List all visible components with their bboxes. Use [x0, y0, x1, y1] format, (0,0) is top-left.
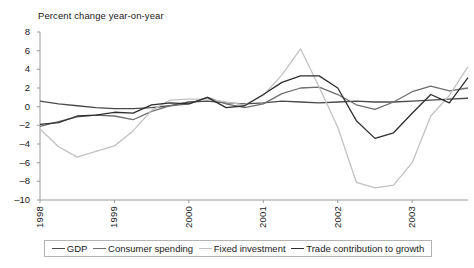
legend-swatch: [291, 248, 304, 249]
legend-swatch: [52, 248, 65, 249]
series-line: [40, 49, 468, 188]
chart-legend: GDPConsumer spendingFixed investmentTrad…: [44, 240, 432, 257]
x-axis-tick-label: 2002: [333, 206, 343, 228]
legend-label: Consumer spending: [108, 244, 193, 254]
legend-swatch: [93, 248, 106, 249]
x-axis-tick-label: 1998: [35, 206, 45, 228]
x-axis-tick-label: 2000: [184, 206, 194, 228]
legend-item[interactable]: Fixed investment: [199, 244, 286, 254]
x-axis-ticks: 199819992000200120022003: [0, 206, 474, 242]
legend-label: Trade contribution to growth: [306, 244, 424, 254]
legend-label: GDP: [67, 244, 88, 254]
legend-swatch: [199, 248, 212, 249]
legend-item[interactable]: Consumer spending: [93, 244, 193, 254]
x-axis-tick-label: 1999: [109, 206, 119, 228]
x-axis-tick-label: 2001: [258, 206, 268, 228]
x-axis-tick-label: 2003: [407, 206, 417, 228]
legend-item[interactable]: GDP: [52, 244, 88, 254]
legend-label: Fixed investment: [214, 244, 286, 254]
axis-lines: [37, 32, 468, 203]
chart-container: Percent change year-on-year 86420–2–4–6–…: [0, 0, 474, 268]
series-line: [40, 86, 468, 126]
series-line: [40, 76, 468, 139]
legend-item[interactable]: Trade contribution to growth: [291, 244, 424, 254]
series-lines: [40, 49, 468, 188]
